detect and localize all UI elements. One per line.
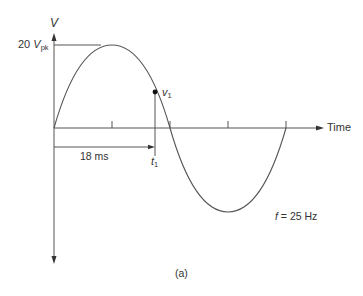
t1-label: t1 bbox=[151, 155, 158, 169]
v1-label: v1 bbox=[162, 86, 172, 100]
sine-wave-diagram bbox=[0, 0, 363, 296]
v1-point bbox=[153, 90, 158, 95]
x-axis-ticks bbox=[112, 121, 286, 128]
interval-arrowhead-icon bbox=[148, 145, 155, 149]
y-axis-label: V bbox=[50, 16, 58, 30]
t1-subscript: 1 bbox=[154, 160, 158, 169]
y-axis-up-arrow-icon bbox=[52, 33, 57, 41]
frequency-label: f = 25 Hz bbox=[275, 210, 317, 222]
peak-label: 20 Vpk bbox=[18, 38, 49, 52]
frequency-value: = 25 Hz bbox=[278, 210, 317, 222]
peak-subscript: pk bbox=[41, 43, 49, 52]
v1-subscript: 1 bbox=[168, 91, 172, 100]
figure-caption: (a) bbox=[175, 267, 188, 279]
x-axis-label: Time bbox=[327, 121, 351, 133]
interval-label: 18 ms bbox=[80, 150, 109, 162]
y-axis-down-arrow-icon bbox=[52, 256, 57, 264]
peak-value: 20 bbox=[18, 38, 30, 50]
x-axis-arrow-icon bbox=[316, 126, 324, 131]
peak-symbol: V bbox=[33, 38, 40, 50]
